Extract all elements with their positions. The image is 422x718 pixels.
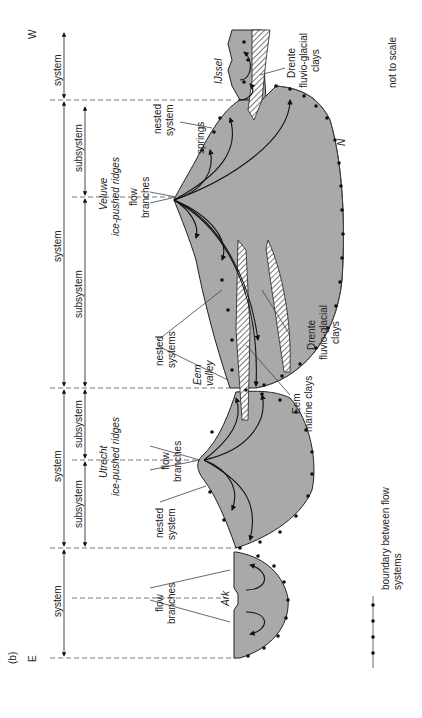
east-label: E: [27, 655, 38, 662]
utrecht-ridge-name: Utrecht: [98, 445, 109, 478]
eem-valley-label: Eem: [192, 364, 203, 385]
flow-branches-label: branches: [140, 177, 151, 218]
west-label: W: [27, 29, 38, 39]
ark-label: Ark: [220, 590, 231, 607]
flow-branches-label: branches: [166, 583, 177, 624]
nested-system-label: nested: [152, 104, 163, 134]
drente-clays-label: clays: [310, 49, 321, 72]
subsystem-label: subsystem: [73, 124, 84, 172]
drente-clays-label: clays: [330, 321, 341, 344]
nested-system-label: system: [164, 104, 175, 136]
veluwe-ridge-sub: ice-pushed ridges: [110, 157, 121, 236]
utrecht-ridge-sub: ice-pushed ridges: [110, 417, 121, 496]
system-label: system: [52, 585, 63, 617]
nested-systems-label: nested: [154, 336, 165, 366]
subsystem-label: subsystem: [73, 480, 84, 528]
flow-branches-label: flow: [154, 593, 165, 612]
nested-systems-label: systems: [166, 331, 177, 368]
drente-clays-label: Drente: [286, 48, 297, 78]
hydrogeological-flow-diagram: (b) E W system system system system subs…: [0, 0, 422, 718]
drente-clays-label: Drente: [306, 320, 317, 350]
drente-clays-label: fluvio-glacial: [318, 305, 329, 360]
legend-label: systems: [392, 553, 403, 590]
subsystem-label: subsystem: [73, 270, 84, 318]
springs-label: springs: [195, 122, 206, 154]
nested-system-label: system: [166, 508, 177, 540]
system-label: system: [52, 54, 63, 86]
legend: boundary between flow systems: [371, 486, 403, 668]
system-label: system: [52, 450, 63, 482]
scale-note: not to scale: [387, 36, 398, 88]
panel-label: (b): [7, 652, 18, 664]
eem-valley-label: valley: [204, 359, 215, 386]
subsystem-label: subsystem: [73, 400, 84, 448]
drente-clays-label: fluvio-glacial: [298, 33, 309, 88]
nested-system-label: nested: [154, 508, 165, 538]
system-label: system: [52, 230, 63, 262]
flow-branches-label: flow: [128, 187, 139, 206]
flow-branches-label: branches: [172, 441, 183, 482]
eem-marine-clays-label: Eem: [291, 393, 302, 414]
ijssel-label: IJssel: [213, 58, 224, 84]
veluwe-ridge-name: Veluwe: [98, 177, 109, 210]
eem-marine-clays-label: marine clays: [303, 376, 314, 432]
flow-branches-label: flow: [160, 451, 171, 470]
n-marker: N: [336, 138, 347, 146]
legend-label: boundary between flow: [380, 486, 391, 590]
